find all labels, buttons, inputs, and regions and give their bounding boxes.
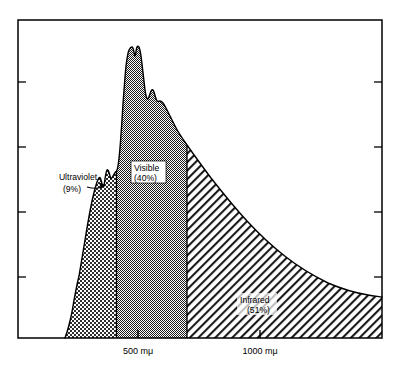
spectrum-figure: 500 mμ 1000 mμ Ultraviolet (9%) Visible … [0, 0, 404, 368]
annotation-visible: Visible (40%) [131, 161, 166, 183]
x-tick-label-500: 500 mμ [123, 346, 153, 356]
ultraviolet-percent: (9%) [63, 184, 81, 194]
visible-label: Visible [134, 163, 159, 173]
infrared-label: Infrared [240, 295, 270, 305]
spectrum-chart-svg: 500 mμ 1000 mμ Ultraviolet (9%) Visible … [0, 0, 404, 368]
visible-percent: (40%) [134, 173, 157, 183]
ultraviolet-label: Ultraviolet [59, 172, 98, 182]
x-tick-label-1000: 1000 mμ [242, 346, 277, 356]
annotation-infrared: Infrared (51%) [237, 293, 277, 315]
infrared-percent: (51%) [247, 305, 270, 315]
